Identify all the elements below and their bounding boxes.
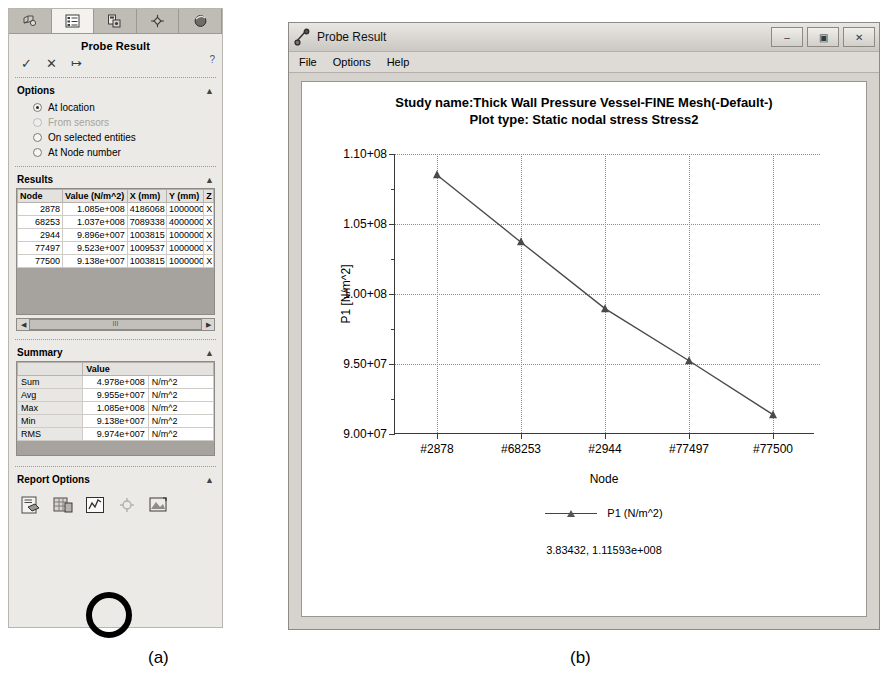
radio-indicator: [33, 103, 42, 112]
summary-empty-area: [17, 441, 214, 455]
y-tick-label: 1.10+08: [343, 147, 387, 161]
chevron-up-icon[interactable]: ▲: [205, 175, 214, 185]
chevron-up-icon[interactable]: ▲: [205, 348, 214, 358]
divider: [15, 466, 216, 467]
model-icon: [22, 14, 38, 28]
chevron-up-icon[interactable]: ▲: [205, 475, 214, 485]
scroll-left-arrow[interactable]: ◀: [18, 321, 28, 329]
chart-legend: P1 (N/m^2): [394, 507, 814, 519]
results-section-label: Results: [17, 174, 53, 185]
col-x[interactable]: X (mm): [127, 190, 166, 203]
data-point[interactable]: [685, 356, 693, 364]
options-section-header[interactable]: Options ▲: [9, 80, 222, 99]
table-cell: X: [204, 229, 214, 242]
tab-display[interactable]: [137, 9, 180, 33]
tab-property-manager[interactable]: [52, 9, 95, 33]
help-icon[interactable]: ?: [209, 54, 215, 65]
radio-from-sensors[interactable]: From sensors: [9, 115, 222, 130]
table-row[interactable]: 29449.896e+00710038151000000X: [18, 229, 214, 242]
spreadsheet-icon: [52, 495, 74, 515]
radio-indicator: [33, 118, 42, 127]
table-cell: 2878: [18, 203, 63, 216]
summary-lbl: RMS: [18, 428, 83, 441]
results-empty-area: [17, 268, 214, 314]
tab-model[interactable]: [9, 9, 52, 33]
menu-item-options[interactable]: Options: [333, 56, 371, 68]
legend-marker-icon: [545, 513, 597, 514]
chevron-up-icon[interactable]: ▲: [205, 86, 214, 96]
radio-on-selected-entities[interactable]: On selected entities: [9, 130, 222, 145]
summary-col-blank: [18, 363, 83, 376]
results-header-row: Node Value (N/m^2) X (mm) Y (mm) Z: [18, 190, 214, 203]
report-icon: [20, 495, 42, 515]
results-horizontal-scrollbar[interactable]: ◀ III ▶: [16, 318, 215, 331]
scroll-thumb[interactable]: III: [29, 319, 202, 330]
data-point[interactable]: [433, 170, 441, 178]
divider: [15, 166, 216, 167]
data-point[interactable]: [769, 410, 777, 418]
table-cell: 7089338: [127, 216, 166, 229]
report-save-as-button[interactable]: [19, 494, 43, 516]
table-cell: 1003815: [127, 229, 166, 242]
report-options-label: Report Options: [17, 474, 90, 485]
animate-button[interactable]: [115, 494, 139, 516]
maximize-button[interactable]: ▣: [807, 27, 839, 47]
table-row[interactable]: 775009.138e+00710038151000000X: [18, 255, 214, 268]
summary-lbl: Sum: [18, 376, 83, 389]
table-cell: X: [204, 255, 214, 268]
summary-section-label: Summary: [17, 347, 63, 358]
table-row[interactable]: 774979.523e+00710095371000000X: [18, 242, 214, 255]
probe-icon: [293, 28, 311, 46]
data-point[interactable]: [601, 304, 609, 312]
table-row[interactable]: 682531.037e+00870893384000000X: [18, 216, 214, 229]
plot-graph-button[interactable]: [83, 494, 107, 516]
summary-row: Max1.085e+008N/m^2: [18, 402, 214, 415]
close-button[interactable]: ✕: [843, 27, 875, 47]
scroll-right-arrow[interactable]: ▶: [203, 321, 213, 329]
radio-at-location[interactable]: At location: [9, 100, 222, 115]
summary-row: Min9.138e+007N/m^2: [18, 415, 214, 428]
report-options-section-header[interactable]: Report Options ▲: [9, 469, 222, 488]
table-row[interactable]: 28781.085e+00841860681000000X: [18, 203, 214, 216]
property-manager-panel: Probe Result ? ✓ ✕ ↦ Options ▲ At locati…: [8, 8, 223, 628]
summary-lbl: Avg: [18, 389, 83, 402]
col-node[interactable]: Node: [18, 190, 63, 203]
data-point[interactable]: [517, 237, 525, 245]
results-section-header[interactable]: Results ▲: [9, 169, 222, 188]
chart-title-block: Study name:Thick Wall Pressure Vessel-FI…: [302, 82, 866, 128]
summary-grid[interactable]: Value Sum4.978e+008N/m^2Avg9.955e+007N/m…: [16, 361, 215, 456]
cancel-button[interactable]: ✕: [46, 57, 57, 70]
legend-label: P1 (N/m^2): [607, 507, 662, 519]
table-cell: 1003815: [127, 255, 166, 268]
menu-item-help[interactable]: Help: [387, 56, 410, 68]
col-z[interactable]: Z: [204, 190, 214, 203]
pin-button[interactable]: ↦: [71, 57, 82, 70]
menu-item-file[interactable]: File: [299, 56, 317, 68]
crosshair-icon: [150, 14, 165, 28]
col-value[interactable]: Value (N/m^2): [63, 190, 128, 203]
tab-appearance[interactable]: [179, 9, 222, 33]
table-cell: X: [204, 242, 214, 255]
save-as-csv-button[interactable]: [51, 494, 75, 516]
summary-unit: N/m^2: [148, 428, 213, 441]
table-cell: 9.523e+007: [63, 242, 128, 255]
results-grid[interactable]: Node Value (N/m^2) X (mm) Y (mm) Z 28781…: [16, 188, 215, 315]
y-axis-label: P1 [N/m^2]: [339, 265, 353, 324]
summary-val: 1.085e+008: [83, 402, 148, 415]
col-y[interactable]: Y (mm): [166, 190, 203, 203]
table-cell: 4186068: [127, 203, 166, 216]
radio-label: At location: [48, 102, 95, 113]
summary-val: 9.138e+007: [83, 415, 148, 428]
summary-header-row: Value: [18, 363, 214, 376]
annotation-circle-highlight: [86, 592, 132, 638]
tab-configuration[interactable]: [94, 9, 137, 33]
radio-at-node-number[interactable]: At Node number: [9, 145, 222, 160]
accept-button[interactable]: ✓: [21, 57, 32, 70]
minimize-button[interactable]: –: [771, 27, 803, 47]
save-image-button[interactable]: [147, 494, 171, 516]
window-title-bar[interactable]: Probe Result – ▣ ✕: [289, 23, 879, 52]
radio-label: On selected entities: [48, 132, 136, 143]
x-tick-label: #77500: [753, 442, 793, 456]
summary-row: RMS9.974e+007N/m^2: [18, 428, 214, 441]
summary-section-header[interactable]: Summary ▲: [9, 342, 222, 361]
